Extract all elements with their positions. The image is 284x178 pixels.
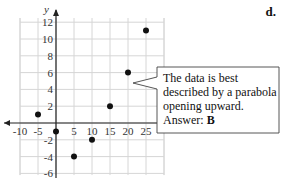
svg-text:-10: -10 <box>13 125 28 137</box>
svg-text:10: 10 <box>87 125 99 137</box>
svg-text:-4: -4 <box>44 151 54 163</box>
svg-text:2: 2 <box>48 100 54 112</box>
svg-text:described by a parabola: described by a parabola <box>163 85 277 99</box>
svg-text:-6: -6 <box>44 167 54 178</box>
svg-text:6: 6 <box>48 67 54 79</box>
svg-text:8: 8 <box>48 50 54 62</box>
tick-labels: -10-551015202512108642-2-4-6 <box>13 16 152 178</box>
svg-text:opening upward.: opening upward. <box>163 99 244 113</box>
svg-text:The data is best: The data is best <box>163 71 239 85</box>
problem-label: d. <box>266 4 276 20</box>
svg-text:15: 15 <box>105 125 117 137</box>
svg-text:25: 25 <box>141 125 153 137</box>
svg-text:-2: -2 <box>44 134 53 146</box>
scatter-plot: y -10-551015202512108642-2-4-6 The data … <box>0 0 284 178</box>
svg-text:-5: -5 <box>33 125 43 137</box>
svg-text:20: 20 <box>123 125 135 137</box>
svg-text:Answer: B: Answer: B <box>163 113 215 127</box>
svg-text:12: 12 <box>42 16 53 28</box>
svg-text:4: 4 <box>48 83 54 95</box>
svg-text:5: 5 <box>71 125 77 137</box>
svg-text:10: 10 <box>42 33 54 45</box>
svg-text:y: y <box>43 3 49 15</box>
